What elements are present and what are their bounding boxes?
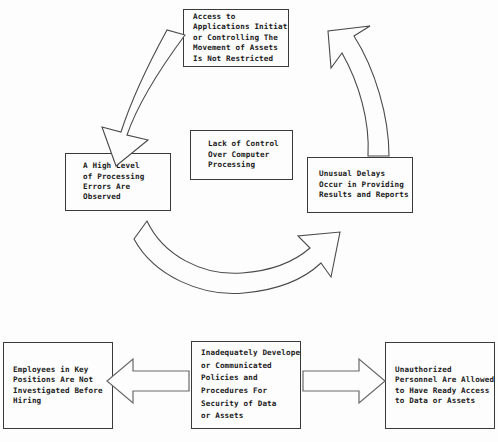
box-text: Lack of Control Over Computer Processing bbox=[191, 139, 292, 170]
box-unauthorized-personnel: Unauthorized Personnel Are Allowed to Ha… bbox=[385, 342, 495, 429]
box-text-line: Over Computer bbox=[208, 150, 288, 160]
box-text-line: Personnel Are Allowed bbox=[395, 375, 490, 385]
diagram-canvas: Access to Applications Initiating or Con… bbox=[0, 0, 498, 442]
box-text-line: Lack of Control bbox=[208, 139, 288, 149]
box-text-line: to Data or Assets bbox=[395, 396, 490, 406]
box-text-line: of Processing bbox=[83, 172, 166, 182]
box-access-to-applications: Access to Applications Initiating or Con… bbox=[183, 9, 289, 67]
box-text-line: A High Level bbox=[83, 161, 166, 171]
box-text-line: Observed bbox=[83, 192, 166, 202]
box-text-line: Hiring bbox=[13, 396, 108, 406]
box-text: A High Level of Processing Errors Are Ob… bbox=[66, 161, 170, 203]
curved-arrow-top-right-icon bbox=[292, 24, 407, 172]
curved-arrow-bottom-icon bbox=[118, 214, 353, 299]
arrow-left-icon bbox=[104, 355, 192, 407]
box-text-line: Employees in Key bbox=[13, 365, 108, 375]
box-text-line: Investigated Before bbox=[13, 386, 108, 396]
box-text-line: to Have Ready Access bbox=[395, 386, 490, 396]
box-text-line: Policies and bbox=[201, 372, 296, 385]
box-text-line: Unauthorized bbox=[395, 365, 490, 375]
box-text-line: Movement of Assets bbox=[193, 43, 284, 53]
box-text: Employees in Key Positions Are Not Inves… bbox=[4, 365, 112, 407]
box-text-line: Errors Are bbox=[83, 182, 166, 192]
box-inadequate-policies: Inadequately Developed or Communicated P… bbox=[191, 341, 301, 429]
box-text-line: Unusual Delays bbox=[319, 169, 408, 179]
box-text-line: Inadequately Developed bbox=[201, 347, 296, 360]
box-text-line: Processing bbox=[208, 160, 288, 170]
box-text: Access to Applications Initiating or Con… bbox=[184, 12, 288, 64]
box-text-line: Applications Initiating bbox=[193, 22, 284, 32]
box-text-line: Occur in Providing bbox=[319, 180, 408, 190]
box-text: Inadequately Developed or Communicated P… bbox=[192, 347, 300, 423]
box-employees-not-investigated: Employees in Key Positions Are Not Inves… bbox=[3, 342, 113, 429]
box-text: Unusual Delays Occur in Providing Result… bbox=[308, 169, 412, 200]
arrow-right-icon bbox=[300, 355, 388, 407]
box-text-line: or Assets bbox=[201, 410, 296, 423]
box-text-line: Is Not Restricted bbox=[193, 54, 284, 64]
box-text-line: Results and Reports bbox=[319, 190, 408, 200]
box-unusual-delays: Unusual Delays Occur in Providing Result… bbox=[307, 157, 413, 213]
box-text-line: or Communicated bbox=[201, 360, 296, 373]
box-text-line: or Controlling The bbox=[193, 33, 284, 43]
box-text: Unauthorized Personnel Are Allowed to Ha… bbox=[386, 365, 494, 407]
box-text-line: Positions Are Not bbox=[13, 375, 108, 385]
box-text-line: Procedures For bbox=[201, 385, 296, 398]
box-lack-of-control: Lack of Control Over Computer Processing bbox=[190, 130, 293, 180]
box-text-line: Security of Data bbox=[201, 398, 296, 411]
box-text-line: Access to bbox=[193, 12, 284, 22]
box-high-level-processing-errors: A High Level of Processing Errors Are Ob… bbox=[65, 153, 171, 211]
